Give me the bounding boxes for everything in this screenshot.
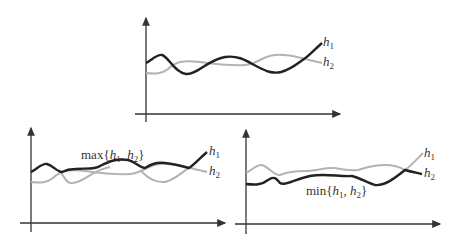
label-h2: h2 bbox=[424, 165, 435, 182]
max-annotation: max{h1, h2} bbox=[81, 147, 144, 164]
panel-max: max{h1, h2} h1 h2 bbox=[20, 128, 225, 232]
label-h1: h1 bbox=[209, 143, 220, 160]
curve-h1 bbox=[146, 43, 322, 74]
label-h2: h2 bbox=[209, 163, 220, 180]
curve-upper bbox=[246, 153, 423, 175]
label-h1: h1 bbox=[424, 145, 435, 162]
panel-top: h1 h2 bbox=[135, 18, 340, 122]
envelope-diagram: h1 h2 max{h1, h2} h1 h2 min{h1, h2} h1 h… bbox=[0, 0, 462, 245]
min-annotation: min{h1, h2} bbox=[306, 183, 367, 200]
panel-min: min{h1, h2} h1 h2 bbox=[235, 130, 440, 234]
label-h2: h2 bbox=[323, 54, 334, 71]
label-h1: h1 bbox=[323, 34, 334, 51]
